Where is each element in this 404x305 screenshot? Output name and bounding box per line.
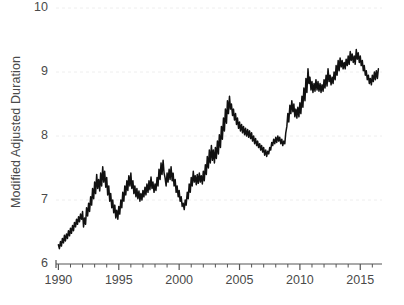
x-tick-label-1990: 1990	[28, 274, 88, 287]
chart-container: Modified Adjusted Duration 109876 199019…	[0, 0, 404, 305]
data-line-modified-adjusted-duration	[58, 50, 378, 249]
x-tick-label-2005: 2005	[210, 274, 270, 287]
x-tick-label-2015: 2015	[330, 274, 390, 287]
x-tick-label-2000: 2000	[149, 274, 209, 287]
x-axis-tick-labels: 199019952000200520102015	[0, 274, 404, 294]
x-tick-label-1995: 1995	[89, 274, 149, 287]
x-tick-label-2010: 2010	[270, 274, 330, 287]
plot-area	[0, 0, 404, 305]
